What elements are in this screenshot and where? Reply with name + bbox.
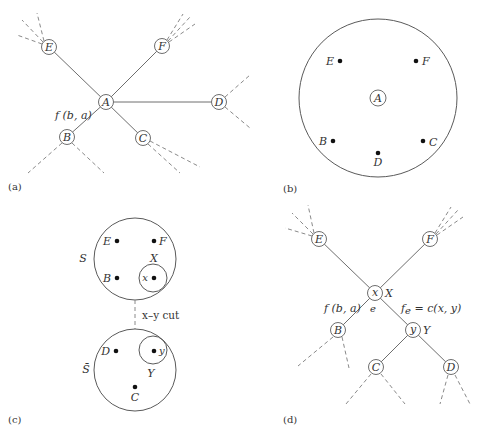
svg-text:F: F (421, 55, 430, 68)
set-s-bar-label: S̄ (82, 363, 90, 376)
set-x-label: X (384, 287, 394, 300)
node-c: C (136, 131, 151, 146)
point-f (152, 239, 157, 244)
svg-text:D: D (100, 345, 110, 358)
node-f: F (155, 39, 170, 54)
node-f: F (423, 232, 438, 247)
edge-a-f (106, 46, 162, 102)
svg-text:x: x (142, 272, 148, 283)
svg-text:x: x (372, 286, 379, 299)
svg-text:B: B (333, 324, 342, 337)
svg-text:B: B (62, 131, 71, 144)
edge-label-f-b-a: f (b, a) (54, 109, 92, 122)
edge-x-e (319, 239, 375, 293)
svg-text:E: E (44, 41, 53, 54)
panel-d: E F x X B y Y C D f (b, a) e fe = c(x (283, 205, 470, 425)
svg-text:D: D (214, 96, 224, 109)
point-d (376, 151, 381, 156)
point-x (152, 276, 157, 281)
svg-text:C: C (372, 361, 381, 374)
node-x: x (368, 286, 383, 301)
point-f (414, 59, 419, 64)
svg-text:E: E (102, 235, 111, 248)
point-d (114, 349, 119, 354)
point-c (421, 139, 426, 144)
svg-text:y: y (158, 345, 165, 356)
node-d: D (444, 360, 459, 375)
point-e (338, 59, 343, 64)
svg-text:C: C (131, 391, 140, 404)
svg-text:D: D (446, 361, 456, 374)
figure: E F A D B C f (b, a) (a) A (0, 0, 485, 443)
svg-text:F: F (158, 235, 167, 248)
panel-c: S E F X B x x–y cut S̄ D y Y C (c) (8, 218, 180, 425)
svg-text:E: E (314, 233, 323, 246)
svg-text:B: B (102, 272, 111, 285)
point-c (133, 385, 138, 390)
svg-text:A: A (373, 92, 382, 105)
node-e: E (42, 40, 57, 55)
panel-a: E F A D B C f (b, a) (a) (8, 13, 250, 192)
dashed-stubs-a (17, 13, 250, 173)
edge-e-label: e (370, 303, 376, 314)
svg-text:F: F (157, 40, 166, 53)
svg-text:B: B (318, 135, 327, 148)
node-y: y (406, 323, 421, 338)
caption-a: (a) (8, 181, 22, 192)
caption-b: (b) (283, 183, 297, 194)
svg-text:D: D (373, 156, 383, 169)
svg-text:C: C (139, 132, 148, 145)
edge-a-e (49, 47, 106, 102)
node-c: C (369, 360, 384, 375)
svg-text:C: C (429, 136, 438, 149)
svg-text:y: y (409, 323, 417, 336)
set-y-label: Y (423, 324, 432, 337)
subset-y-label: Y (147, 367, 156, 380)
point-y (152, 349, 157, 354)
node-a: A (99, 95, 114, 110)
panel-b: A E F B C D (b) (283, 19, 457, 194)
node-e: E (312, 232, 327, 247)
point-b (331, 139, 336, 144)
node-a-center: A (370, 90, 386, 106)
right-edge-label: fe = c(x, y) (400, 302, 461, 316)
subset-x-label: X (149, 252, 159, 265)
node-b: B (60, 130, 75, 145)
svg-text:E: E (325, 55, 334, 68)
node-b: B (331, 323, 346, 338)
edge-x-f (375, 239, 430, 293)
caption-c: (c) (8, 414, 22, 425)
set-s-label: S (79, 252, 87, 265)
node-d: D (212, 95, 227, 110)
caption-d: (d) (283, 414, 297, 425)
point-b (115, 276, 120, 281)
svg-text:F: F (425, 233, 434, 246)
left-edge-label: f (b, a) (323, 302, 361, 315)
point-e (115, 239, 120, 244)
cut-label: x–y cut (142, 309, 180, 321)
svg-text:A: A (101, 96, 110, 109)
